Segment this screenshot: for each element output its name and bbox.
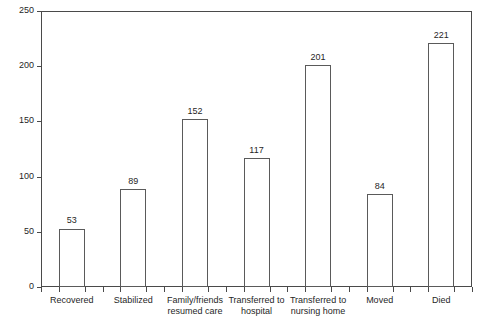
x-axis-label-line: Died (407, 295, 475, 306)
x-axis-label: Transferred tonursing home (284, 295, 352, 317)
y-tick-label: 150 (8, 116, 34, 125)
bar (244, 158, 270, 287)
x-tick-mark (428, 287, 429, 292)
x-axis-label-line: Stabilized (99, 295, 167, 306)
x-tick-mark (472, 287, 473, 292)
x-tick-mark (85, 287, 86, 292)
x-tick-mark (349, 287, 350, 292)
y-tick-label: 200 (8, 61, 34, 70)
y-tick-label: 100 (8, 172, 34, 181)
x-tick-mark (331, 287, 332, 292)
x-tick-mark (182, 287, 183, 292)
y-tick-label: 0 (8, 282, 34, 291)
x-axis-label-line: hospital (223, 306, 291, 317)
x-axis-label-line: Moved (346, 295, 414, 306)
x-tick-mark (410, 287, 411, 292)
x-tick-mark (120, 287, 121, 292)
x-tick-mark (305, 287, 306, 292)
bar-value-label: 221 (421, 30, 461, 40)
x-axis-label-line: Transferred to (284, 295, 352, 306)
x-axis-label: Recovered (38, 295, 106, 306)
x-tick-mark (244, 287, 245, 292)
x-tick-mark (164, 287, 165, 292)
x-tick-mark (103, 287, 104, 292)
x-axis-label: Transferred tohospital (223, 295, 291, 317)
bar (428, 43, 454, 287)
x-tick-mark (59, 287, 60, 292)
bar (182, 119, 208, 287)
x-axis-label-line: Recovered (38, 295, 106, 306)
x-tick-mark (367, 287, 368, 292)
x-tick-mark (454, 287, 455, 292)
x-tick-mark (41, 287, 42, 292)
bar-value-label: 84 (360, 181, 400, 191)
bar-value-label: 53 (52, 215, 92, 225)
bar-value-label: 89 (113, 176, 153, 186)
bar-value-label: 201 (298, 52, 338, 62)
x-axis-label: Died (407, 295, 475, 306)
x-axis-label-line: Transferred to (223, 295, 291, 306)
x-tick-mark (393, 287, 394, 292)
x-tick-mark (287, 287, 288, 292)
bar (367, 194, 393, 287)
bar (305, 65, 331, 287)
x-axis-label: Family/friendsresumed care (161, 295, 229, 317)
x-axis-label-line: nursing home (284, 306, 352, 317)
x-axis-label: Moved (346, 295, 414, 306)
y-tick-label: 250 (8, 6, 34, 15)
bar-value-label: 117 (237, 145, 277, 155)
bar-value-label: 152 (175, 106, 215, 116)
x-axis-label: Stabilized (99, 295, 167, 306)
bar-chart: Average number of days 050100150200250 5… (0, 0, 481, 326)
x-tick-mark (146, 287, 147, 292)
x-axis-label-line: Family/friends (161, 295, 229, 306)
y-tick-label: 50 (8, 227, 34, 236)
x-tick-mark (208, 287, 209, 292)
x-axis-label-line: resumed care (161, 306, 229, 317)
bar (120, 189, 146, 287)
bar (59, 229, 85, 288)
x-tick-mark (226, 287, 227, 292)
x-tick-mark (270, 287, 271, 292)
